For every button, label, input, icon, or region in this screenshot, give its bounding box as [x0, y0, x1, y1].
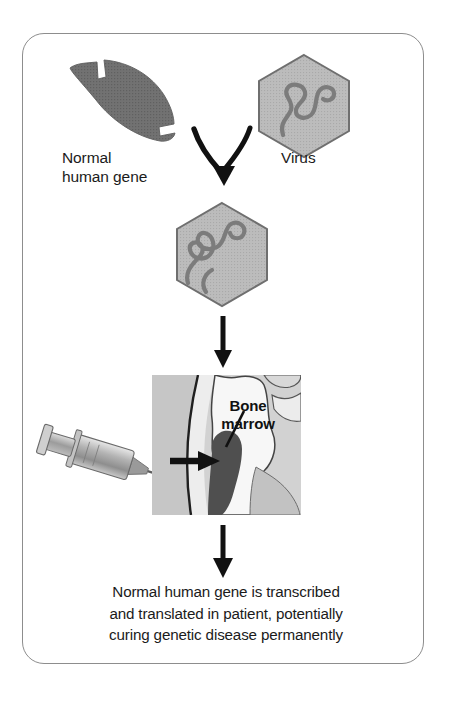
- label-bone-marrow: Bone marrow: [196, 397, 300, 432]
- bone-marrow-drawing: [152, 375, 301, 515]
- bone-marrow-illustration: [152, 375, 301, 515]
- outcome-caption: Normal human gene is transcribed and tra…: [40, 581, 412, 646]
- gene-therapy-figure: Normal human gene Virus Bone marrow Norm…: [0, 0, 449, 702]
- caption-line-1: Normal human gene is transcribed: [40, 581, 412, 603]
- caption-line-3: curing genetic disease permanently: [40, 624, 412, 646]
- caption-line-2: and translated in patient, potentially: [40, 603, 412, 625]
- figure-frame-border: [22, 33, 424, 664]
- label-virus: Virus: [281, 148, 401, 167]
- label-normal-human-gene: Normal human gene: [62, 148, 202, 186]
